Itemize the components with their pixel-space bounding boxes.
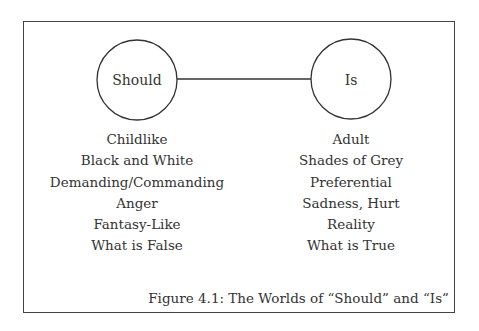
list-item: Anger (37, 193, 237, 214)
figure-caption: Figure 4.1: The Worlds of “Should” and “… (148, 290, 449, 306)
list-item: Preferential (251, 172, 451, 193)
list-item: Sadness, Hurt (251, 193, 451, 214)
list-item: Demanding/Commanding (37, 172, 237, 193)
should-attributes-list: Childlike Black and White Demanding/Comm… (37, 129, 237, 257)
is-node-label: Is (311, 72, 391, 88)
should-node-label: Should (97, 72, 177, 88)
list-item: What is False (37, 235, 237, 256)
list-item: Shades of Grey (251, 150, 451, 171)
list-item: What is True (251, 235, 451, 256)
is-attributes-list: Adult Shades of Grey Preferential Sadnes… (251, 129, 451, 257)
list-item: Childlike (37, 129, 237, 150)
list-item: Fantasy-Like (37, 214, 237, 235)
list-item: Reality (251, 214, 451, 235)
list-item: Adult (251, 129, 451, 150)
list-item: Black and White (37, 150, 237, 171)
